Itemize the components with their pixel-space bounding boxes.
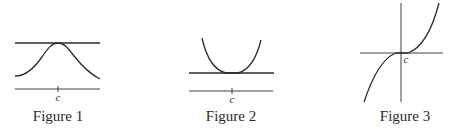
- figure-2-curve: [202, 38, 261, 73]
- figure-1-point-label: c: [56, 91, 61, 103]
- figure-2: [189, 38, 274, 94]
- figure-2-point-label: c: [230, 93, 235, 105]
- figure-3-curve: [364, 3, 439, 102]
- figure-3: [360, 3, 443, 102]
- figure-2-caption: Figure 2: [206, 108, 256, 125]
- figure-3-point-label: c: [404, 53, 409, 65]
- figure-3-caption: Figure 3: [380, 108, 430, 125]
- figure-1-curve: [15, 43, 100, 79]
- figure-1: [15, 43, 100, 92]
- figure-1-caption: Figure 1: [33, 108, 83, 125]
